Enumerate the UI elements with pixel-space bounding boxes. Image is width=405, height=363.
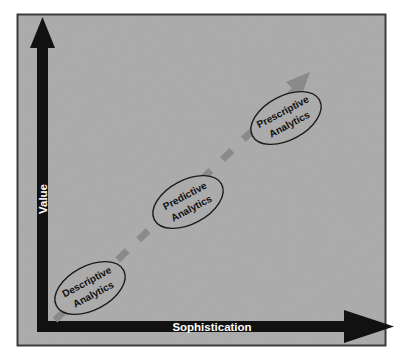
x-axis-label: Sophistication <box>172 321 251 333</box>
analytics-maturity-diagram: Value Sophistication Descriptive Analyti… <box>0 0 405 363</box>
y-axis-label: Value <box>37 184 49 214</box>
diagram-canvas: Value Sophistication Descriptive Analyti… <box>0 0 405 363</box>
